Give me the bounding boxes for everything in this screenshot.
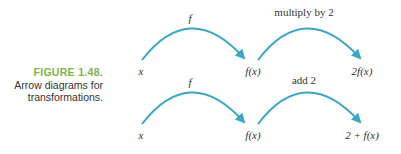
- node-label: 2f(x): [352, 65, 373, 78]
- arrow-label: f: [188, 12, 193, 24]
- arrow-label: multiply by 2: [274, 6, 333, 18]
- node-label: x: [138, 65, 144, 77]
- node-label: 2 + f(x): [345, 129, 379, 142]
- arrow-diagrams: f multiply by 2 x f(x) 2f(x) f add 2 x f…: [0, 0, 401, 154]
- diagram-row-2: f add 2 x f(x) 2 + f(x): [138, 74, 380, 142]
- arrow-f: [142, 28, 244, 60]
- arrow-f: [142, 92, 244, 124]
- node-label: f(x): [245, 129, 261, 142]
- diagram-row-1: f multiply by 2 x f(x) 2f(x): [138, 6, 373, 78]
- arrow-multiply: [258, 28, 360, 60]
- node-label: x: [138, 129, 144, 141]
- arrow-label: add 2: [292, 74, 316, 86]
- arrow-add: [258, 92, 360, 124]
- node-label: f(x): [245, 65, 261, 78]
- arrow-label: f: [188, 76, 193, 88]
